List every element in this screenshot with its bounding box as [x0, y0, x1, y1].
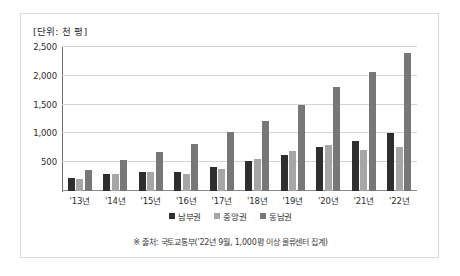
bar	[316, 147, 323, 191]
x-tick-label: '18년	[247, 194, 267, 206]
y-tick-label: 1,000	[33, 128, 57, 138]
legend-item[interactable]: 동남권	[260, 210, 292, 222]
x-tick-label: '19년	[283, 194, 303, 206]
legend-item[interactable]: 중앙권	[214, 210, 246, 222]
x-tick-label: '21년	[354, 194, 374, 206]
y-tick-label: 2,500	[33, 42, 57, 52]
bar	[254, 159, 261, 191]
x-tick-label: '14년	[105, 194, 125, 206]
bar	[245, 161, 252, 191]
bar	[387, 133, 394, 191]
bar	[85, 170, 92, 191]
bar-group	[346, 47, 382, 191]
x-tick-label: '17년	[212, 194, 232, 206]
source-footnote: ※ 출처: 국토교통부('22년 9월, 1,000평 이상 물류센터 집계)	[21, 236, 440, 247]
bar	[191, 144, 198, 191]
bar	[289, 151, 296, 191]
legend-swatch-icon	[169, 213, 175, 219]
y-tick-label: 2,000	[33, 71, 57, 81]
bar	[404, 53, 411, 191]
bar	[147, 172, 154, 191]
x-axis-tick-labels: '13년'14년'15년'16년'17년'18년'19년'20년'21년'22년	[62, 194, 417, 208]
bar	[103, 174, 110, 191]
bar	[120, 160, 127, 191]
x-tick-label: '22년	[389, 194, 409, 206]
bar-group	[311, 47, 347, 191]
bar	[333, 87, 340, 191]
bar	[112, 174, 119, 191]
bar	[68, 178, 75, 191]
y-axis-tick-labels: 5001,0001,5002,0002,500	[21, 47, 57, 191]
legend-swatch-icon	[214, 213, 220, 219]
y-tick-label: 1,500	[33, 100, 57, 110]
bar	[325, 145, 332, 191]
bar	[352, 141, 359, 191]
bar	[396, 147, 403, 191]
bar	[281, 155, 288, 191]
bar-group	[133, 47, 169, 191]
bar-group	[169, 47, 205, 191]
bar-group	[240, 47, 276, 191]
bar	[262, 121, 269, 191]
bar	[156, 152, 163, 191]
x-tick-label: '15년	[141, 194, 161, 206]
bar-group	[98, 47, 134, 191]
bar	[76, 179, 83, 191]
chart-legend: 남부권중앙권동남권	[21, 210, 440, 222]
bar	[298, 105, 305, 191]
bar	[218, 169, 225, 191]
y-tick-label: 500	[41, 157, 57, 167]
plot-area	[62, 47, 417, 191]
bar-group	[275, 47, 311, 191]
bar	[139, 172, 146, 191]
legend-label: 중앙권	[223, 210, 246, 222]
x-tick-label: '13년	[70, 194, 90, 206]
legend-label: 동남권	[269, 210, 292, 222]
chart-frame: [단위: 천 평] 5001,0001,5002,0002,500 '13년'1…	[20, 13, 439, 258]
bar-group	[62, 47, 98, 191]
x-tick-label: '20년	[318, 194, 338, 206]
legend-swatch-icon	[260, 213, 266, 219]
bar-group	[382, 47, 418, 191]
bar-group	[204, 47, 240, 191]
bar	[183, 174, 190, 191]
unit-label: [단위: 천 평]	[33, 24, 87, 38]
bar	[174, 172, 181, 191]
legend-label: 남부권	[178, 210, 201, 222]
bar	[360, 150, 367, 191]
legend-item[interactable]: 남부권	[169, 210, 201, 222]
bar	[227, 132, 234, 191]
bar	[369, 72, 376, 191]
bars-layer	[62, 47, 417, 191]
bar	[210, 167, 217, 191]
x-tick-label: '16년	[176, 194, 196, 206]
